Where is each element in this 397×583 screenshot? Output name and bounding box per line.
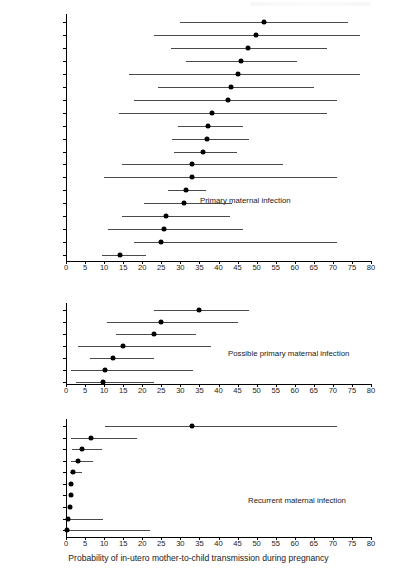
x-axis-tick-label: 60 [291, 264, 299, 272]
estimate-marker [121, 344, 126, 349]
estimate-marker [65, 516, 70, 521]
forest-row [0, 74, 397, 75]
x-axis-tick-label: 75 [348, 387, 356, 395]
x-axis-tick-label: 5 [83, 264, 87, 272]
estimate-marker [189, 424, 194, 429]
estimate-marker [246, 45, 251, 50]
x-axis-tick-label: 40 [214, 387, 222, 395]
x-axis-tick-label: 25 [157, 540, 165, 548]
estimate-marker [68, 493, 73, 498]
forest-row [0, 190, 397, 191]
estimate-marker [110, 356, 115, 361]
x-axis-tick-label: 25 [157, 387, 165, 395]
x-axis-tick-label: 70 [329, 264, 337, 272]
x-axis-tick-label: 55 [271, 540, 279, 548]
panel-annotation: Recurrent maternal infection [248, 496, 346, 505]
x-axis-tick-label: 65 [310, 540, 318, 548]
forest-row [0, 322, 397, 323]
x-axis-tick-label: 70 [329, 387, 337, 395]
forest-row [0, 472, 397, 473]
forest-row [0, 461, 397, 462]
estimate-marker [205, 123, 210, 128]
x-axis-tick-label: 45 [233, 264, 241, 272]
estimate-marker [238, 58, 243, 63]
estimate-marker [182, 201, 187, 206]
forest-row [0, 358, 397, 359]
x-axis-tick-label: 30 [176, 264, 184, 272]
forest-row [0, 164, 397, 165]
estimate-marker [205, 136, 210, 141]
x-axis-tick-label: 75 [348, 264, 356, 272]
forest-row [0, 87, 397, 88]
confidence-interval-line [90, 358, 155, 359]
x-axis-tick-label: 50 [252, 387, 260, 395]
x-axis-tick-label: 65 [310, 264, 318, 272]
forest-row [0, 484, 397, 485]
x-axis-tick-label: 70 [329, 540, 337, 548]
forest-row [0, 242, 397, 243]
confidence-interval-line [108, 229, 243, 230]
confidence-interval-line [107, 322, 237, 323]
confidence-interval-line [129, 74, 360, 75]
x-axis-tick-label: 10 [100, 540, 108, 548]
x-axis-tick-label: 10 [100, 387, 108, 395]
estimate-marker [253, 32, 258, 37]
forest-row [0, 177, 397, 178]
estimate-marker [184, 188, 189, 193]
confidence-interval-line [102, 255, 146, 256]
forest-row [0, 507, 397, 508]
estimate-marker [189, 175, 194, 180]
forest-row [0, 229, 397, 230]
x-axis-tick-label: 30 [176, 387, 184, 395]
x-axis-tick-label: 80 [367, 387, 375, 395]
forest-row [0, 426, 397, 427]
confidence-interval-line [122, 164, 283, 165]
forest-row [0, 139, 397, 140]
y-axis-line [66, 303, 67, 384]
confidence-interval-line [105, 426, 337, 427]
estimate-marker [65, 528, 70, 533]
x-axis-tick-label: 40 [214, 540, 222, 548]
forest-row [0, 100, 397, 101]
estimate-marker [189, 162, 194, 167]
x-axis-tick-label: 35 [195, 264, 203, 272]
x-axis-tick-label: 20 [138, 540, 146, 548]
forest-row [0, 113, 397, 114]
y-axis-line [66, 14, 67, 261]
estimate-marker [76, 458, 81, 463]
confidence-interval-line [178, 126, 243, 127]
confidence-interval-line [76, 382, 155, 383]
x-axis-tick-label: 35 [195, 387, 203, 395]
estimate-marker [152, 332, 157, 337]
x-axis-tick-label: 55 [271, 387, 279, 395]
confidence-interval-line [158, 87, 314, 88]
confidence-interval-line [66, 530, 149, 531]
forest-row [0, 216, 397, 217]
forest-row [0, 449, 397, 450]
confidence-interval-line [71, 461, 92, 462]
forest-row [0, 22, 397, 23]
estimate-marker [68, 481, 73, 486]
forest-row [0, 382, 397, 383]
estimate-marker [70, 470, 75, 475]
confidence-interval-line [122, 216, 230, 217]
forest-plot-figure: 05101520253035404550556065707580Primary … [0, 0, 397, 583]
x-axis-tick-label: 80 [367, 540, 375, 548]
forest-row [0, 48, 397, 49]
x-axis-tick-label: 15 [119, 387, 127, 395]
estimate-marker [201, 149, 206, 154]
estimate-marker [162, 227, 167, 232]
x-axis-tick-label: 15 [119, 540, 127, 548]
estimate-marker [102, 368, 107, 373]
estimate-marker [101, 380, 106, 385]
estimate-marker [236, 71, 241, 76]
estimate-marker [67, 505, 72, 510]
x-axis-tick-label: 20 [138, 264, 146, 272]
x-axis-tick-label: 50 [252, 540, 260, 548]
confidence-interval-line [72, 449, 103, 450]
confidence-interval-line [134, 100, 338, 101]
x-axis-tick-label: 0 [64, 264, 68, 272]
x-axis-tick-label: 30 [176, 540, 184, 548]
forest-row [0, 203, 397, 204]
x-axis-tick-label: 80 [367, 264, 375, 272]
